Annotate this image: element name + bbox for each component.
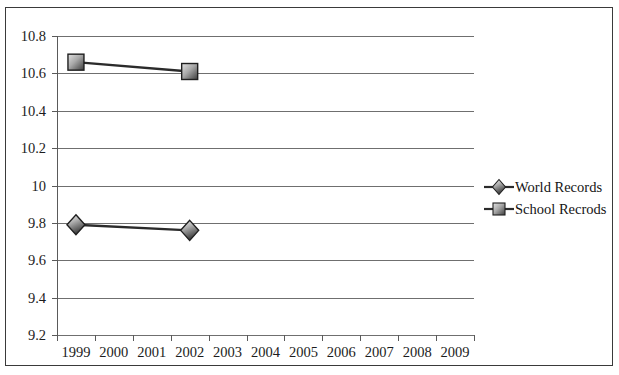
x-axis-tick	[95, 335, 96, 341]
x-axis-label: 1999	[61, 345, 90, 360]
x-axis-tick	[57, 335, 58, 341]
x-axis-tick	[436, 335, 437, 341]
x-axis-label: 2000	[99, 345, 128, 360]
data-point-square	[182, 64, 198, 80]
x-axis-tick	[171, 335, 172, 341]
x-axis-tick	[133, 335, 134, 341]
legend-item-world-records: World Records	[484, 176, 616, 198]
x-axis-tick	[360, 335, 361, 341]
series-line-square	[76, 62, 190, 71]
series-layer	[57, 36, 474, 335]
chart-frame: 10.810.610.410.2109.89.69.49.2	[5, 7, 613, 366]
x-axis-label: 2008	[403, 345, 432, 360]
data-point-diamond	[181, 220, 199, 240]
y-axis-label: 10.2	[21, 141, 46, 156]
x-axis-tick	[322, 335, 323, 341]
y-axis-label: 9.2	[28, 328, 46, 343]
x-axis-label: 2006	[327, 345, 356, 360]
y-axis-label: 10.8	[21, 29, 46, 44]
data-point-square	[68, 54, 84, 70]
gridline	[57, 335, 474, 336]
y-axis-label: 10.4	[21, 104, 46, 119]
x-axis-label: 2002	[175, 345, 204, 360]
square-marker-icon	[484, 200, 514, 218]
x-axis-label: 2007	[365, 345, 394, 360]
x-axis-label: 2005	[289, 345, 318, 360]
y-axis-label: 10.6	[21, 66, 46, 81]
x-axis-label: 2009	[441, 345, 470, 360]
x-axis-label: 2004	[251, 345, 280, 360]
y-axis-label: 9.4	[28, 291, 46, 306]
series-line-diamond	[76, 225, 190, 231]
legend-item-school-records: School Recrods	[484, 198, 616, 220]
diamond-marker-icon	[484, 178, 514, 196]
x-axis-tick	[247, 335, 248, 341]
x-axis-tick	[209, 335, 210, 341]
y-axis-label: 9.8	[28, 216, 46, 231]
x-axis-tick	[284, 335, 285, 341]
data-point-diamond	[67, 215, 85, 235]
x-axis-tick	[474, 335, 475, 341]
x-axis-label: 2003	[213, 345, 242, 360]
y-axis-label: 10	[32, 179, 47, 194]
y-axis-label: 9.6	[28, 253, 46, 268]
legend-label-school-records: School Recrods	[515, 202, 606, 217]
legend-label-world-records: World Records	[515, 180, 602, 195]
x-axis-label: 2001	[137, 345, 166, 360]
chart-screenshot: 10.810.610.410.2109.89.69.49.2	[0, 0, 619, 375]
plot-area	[57, 36, 474, 335]
x-axis-tick	[398, 335, 399, 341]
chart-legend: World Records School Recrods	[484, 176, 616, 220]
